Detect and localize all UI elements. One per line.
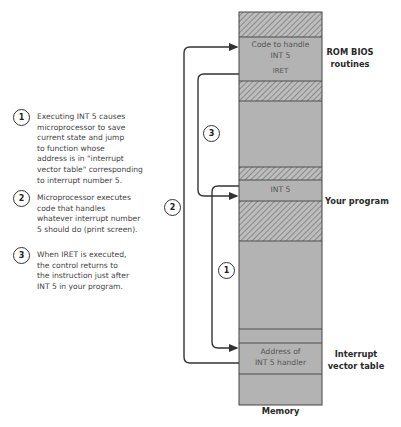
ivt-line-1: Interrupt (326, 349, 386, 361)
note-2-line: whatever interrupt number (37, 214, 172, 225)
address-line-2: INT 5 handler (239, 358, 322, 369)
ivt-line-2: vector table (326, 361, 386, 373)
handler-line-2: INT 5 (239, 51, 322, 62)
note-2-line: code that handles (37, 204, 172, 215)
your-program-label: Your program (325, 196, 391, 208)
note-2: Microprocessor executes code that handle… (37, 193, 172, 235)
note-1-line: vector table" corresponding (37, 165, 172, 176)
ivt-label: Interrupt vector table (326, 349, 386, 372)
note-3-line: the control returns to (37, 261, 172, 272)
note-1-line: current state and jump (37, 133, 172, 144)
iret-label: IRET (239, 66, 322, 77)
rom-line-1: ROM BIOS (324, 47, 376, 59)
rom-bios-label: ROM BIOS routines (324, 47, 376, 70)
int5-label: INT 5 (239, 185, 322, 196)
memory-label: Memory (239, 406, 322, 418)
note-1-line: to interrupt number 5. (37, 176, 172, 187)
note-1: Executing INT 5 causes microprocessor to… (37, 112, 172, 186)
note-1-line: address is in "interrupt (37, 154, 172, 165)
address-line-1: Address of (239, 347, 322, 358)
address-block-label: Address of INT 5 handler (239, 347, 322, 368)
note-1-line: Executing INT 5 causes (37, 112, 172, 123)
note-2-line: Microprocessor executes (37, 193, 172, 204)
note-3-line: the instruction just after (37, 271, 172, 282)
note-1-line: microprocessor to save (37, 123, 172, 134)
handler-block-label: Code to handle INT 5 (239, 40, 322, 61)
arrow-badge-3: 3 (203, 125, 220, 142)
note-3-line: INT 5 in your program. (37, 282, 172, 293)
arrow-badge-1: 1 (218, 262, 235, 279)
note-2-line: 5 should do (print screen). (37, 225, 172, 236)
rom-line-2: routines (324, 59, 376, 71)
note-badge-1: 1 (13, 109, 30, 126)
note-1-line: to function whose (37, 144, 172, 155)
note-3: When IRET is executed, the control retur… (37, 250, 172, 292)
note-badge-2: 2 (13, 190, 30, 207)
handler-line-1: Code to handle (239, 40, 322, 51)
note-badge-3: 3 (13, 247, 30, 264)
note-3-line: When IRET is executed, (37, 250, 172, 261)
